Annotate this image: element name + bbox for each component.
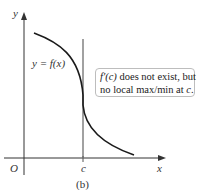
callout-line2-text: no local max/min at [100,84,186,95]
callout-line-2: no local max/min at c. [100,84,194,97]
x-axis-label: x [156,162,162,174]
y-axis-arrow-icon [21,12,27,20]
figure-caption: (b) [76,178,89,190]
tick-label-c: c [81,162,86,174]
origin-label: O [10,162,18,174]
annotation-callout: f′(c) does not exist, but no local max/m… [95,68,195,97]
callout-line-1: f′(c) does not exist, but [100,71,194,84]
callout-fn: f′(c) [100,71,117,82]
callout-period: . [191,84,194,95]
y-axis-label: y [12,7,18,19]
curve-label: y = f(x) [31,57,65,70]
callout-line1-text: does not exist, but [117,71,196,82]
x-axis-arrow-icon [158,155,166,161]
